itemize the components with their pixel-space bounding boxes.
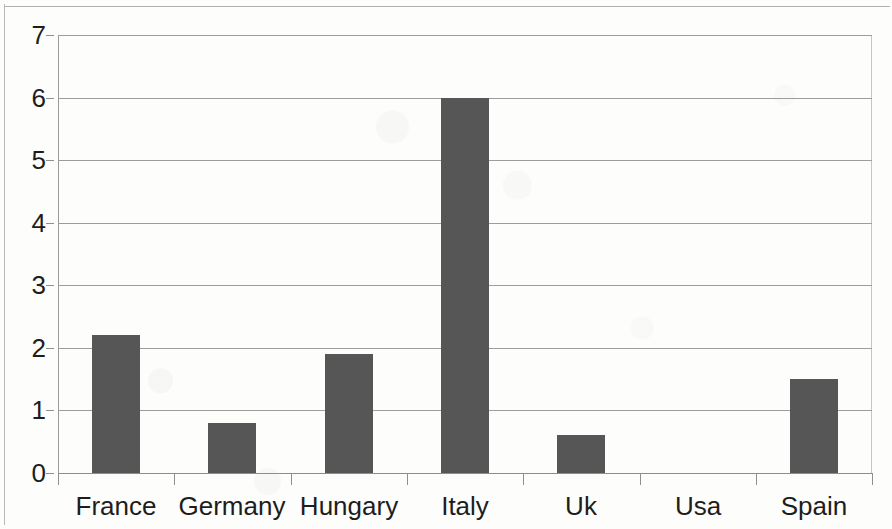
y-tick-mark-3 — [46, 285, 54, 286]
bar-chart-figure: 01234567 FranceGermanyHungaryItalyUkUsaS… — [0, 0, 892, 529]
y-tick-label-1: 1 — [12, 397, 46, 423]
x-category-label-usa: Usa — [640, 493, 756, 519]
y-tick-mark-0 — [46, 473, 54, 474]
y-tick-mark-1 — [46, 410, 54, 411]
bars-group — [58, 35, 872, 473]
y-tick-mark-2 — [46, 348, 54, 349]
y-tick-label-4: 4 — [12, 210, 46, 236]
x-tick-mark-6 — [756, 473, 757, 485]
y-tick-label-6: 6 — [12, 85, 46, 111]
page-frame-top-border — [4, 6, 890, 7]
y-tick-label-3: 3 — [12, 272, 46, 298]
x-category-label-hungary: Hungary — [291, 493, 407, 519]
y-tick-mark-4 — [46, 223, 54, 224]
bar-italy[interactable] — [441, 98, 489, 473]
x-tick-mark-4 — [523, 473, 524, 485]
bar-france[interactable] — [92, 335, 140, 473]
x-tick-mark-2 — [291, 473, 292, 485]
x-tick-mark-0 — [58, 473, 59, 485]
y-tick-label-2: 2 — [12, 335, 46, 361]
x-tick-mark-1 — [174, 473, 175, 485]
y-tick-mark-5 — [46, 160, 54, 161]
x-category-label-france: France — [58, 493, 174, 519]
x-category-label-italy: Italy — [407, 493, 523, 519]
bar-uk[interactable] — [557, 435, 605, 473]
x-axis: FranceGermanyHungaryItalyUkUsaSpain — [58, 473, 872, 529]
bar-spain[interactable] — [790, 379, 838, 473]
y-tick-label-7: 7 — [12, 22, 46, 48]
y-axis-tick-labels: 01234567 — [0, 35, 46, 473]
y-tick-mark-7 — [46, 35, 54, 36]
y-tick-mark-6 — [46, 98, 54, 99]
x-tick-mark-3 — [407, 473, 408, 485]
y-tick-label-0: 0 — [12, 460, 46, 486]
x-category-label-spain: Spain — [756, 493, 872, 519]
x-category-label-uk: Uk — [523, 493, 639, 519]
x-tick-mark-7 — [872, 473, 873, 485]
plot-area — [58, 35, 872, 473]
bar-hungary[interactable] — [325, 354, 373, 473]
x-tick-mark-5 — [640, 473, 641, 485]
bar-germany[interactable] — [208, 423, 256, 473]
y-tick-label-5: 5 — [12, 147, 46, 173]
x-category-label-germany: Germany — [174, 493, 290, 519]
